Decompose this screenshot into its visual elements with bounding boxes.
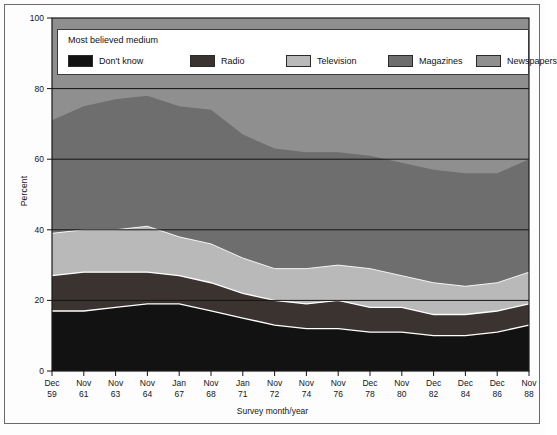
legend-title: Most believed medium [68,35,158,45]
legend-swatch-dont-know [68,55,93,67]
legend-item-radio[interactable]: Radio [190,54,245,68]
y-tick-label: 80 [18,84,44,94]
legend-swatch-newspapers [476,55,501,67]
legend-item-newspapers[interactable]: Newspapers [476,54,557,68]
x-tick-month: Nov [509,378,549,389]
legend-item-dont-know[interactable]: Don't know [68,54,143,68]
y-tick-label: 40 [18,225,44,235]
legend-label-dont-know: Don't know [99,56,143,66]
y-tick-label: 20 [18,295,44,305]
x-tick-label: Nov88 [509,378,549,399]
legend-swatch-magazines [388,55,413,67]
chart-legend: Most believed medium Don't knowRadioTele… [57,29,529,75]
legend-item-magazines[interactable]: Magazines [388,54,463,68]
x-tick-year: 88 [509,389,549,400]
y-tick-label: 0 [18,366,44,376]
x-axis-title: Survey month/year [0,406,545,416]
legend-label-magazines: Magazines [419,56,463,66]
y-axis-title: Percent [19,161,29,221]
legend-label-radio: Radio [221,56,245,66]
legend-label-newspapers: Newspapers [507,56,557,66]
legend-swatch-television [286,55,311,67]
legend-swatch-radio [190,55,215,67]
y-tick-label: 60 [18,154,44,164]
legend-label-television: Television [317,56,357,66]
legend-item-television[interactable]: Television [286,54,357,68]
y-tick-label: 100 [18,13,44,23]
